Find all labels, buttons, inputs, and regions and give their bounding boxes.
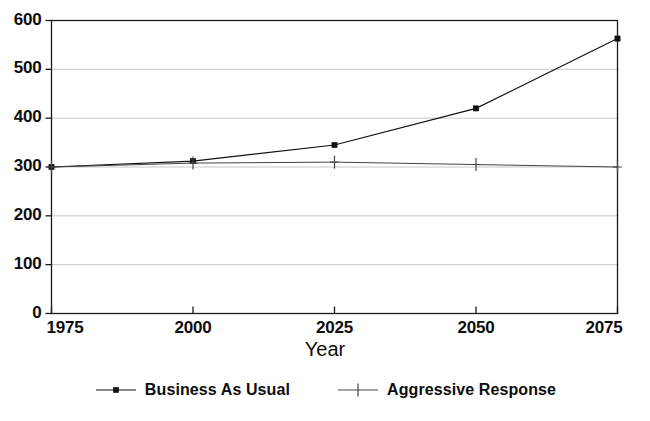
legend-label: Business As Usual <box>145 381 290 399</box>
y-tick-label: 600 <box>0 10 42 30</box>
x-axis-title: Year <box>0 338 650 361</box>
data-series-layer <box>47 36 622 174</box>
chart-legend: Business As UsualAggressive Response <box>0 381 650 399</box>
y-tick-label: 100 <box>0 254 42 274</box>
legend-entry: Aggressive Response <box>336 381 556 399</box>
y-tick-label: 300 <box>0 156 42 176</box>
y-tick-label: 0 <box>0 303 42 323</box>
legend-entry: Business As Usual <box>94 381 290 399</box>
x-tick-marks <box>52 307 618 314</box>
square-marker-icon <box>94 382 138 398</box>
x-tick-label: 1975 <box>47 318 127 338</box>
x-tick-label: 2025 <box>295 318 375 338</box>
chart-figure: 6005004003002001000 19752000202520502075… <box>0 0 650 421</box>
plus-marker-icon <box>336 382 380 398</box>
x-tick-label: 2050 <box>436 318 516 338</box>
y-tick-label: 200 <box>0 205 42 225</box>
y-tick-label: 500 <box>0 58 42 78</box>
legend-label: Aggressive Response <box>387 381 556 399</box>
x-tick-label: 2000 <box>153 318 233 338</box>
y-tick-label: 400 <box>0 107 42 127</box>
x-tick-label: 2075 <box>543 318 623 338</box>
